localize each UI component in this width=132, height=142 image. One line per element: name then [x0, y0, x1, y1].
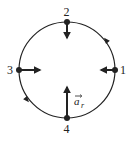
point-label-4: 4	[64, 122, 70, 136]
vector-subscript: r	[81, 101, 85, 110]
motion-direction-arrow-upper-right	[102, 36, 110, 44]
point-4: 4	[64, 87, 71, 136]
point-dot-2	[64, 19, 70, 25]
radial-acceleration-label: a r	[74, 95, 85, 111]
point-1: 1	[101, 63, 126, 77]
point-3: 3	[7, 63, 40, 77]
circular-motion-diagram: 1 2 3 4 a r	[0, 0, 132, 142]
point-2: 2	[64, 5, 71, 38]
point-dot-4	[64, 115, 70, 121]
point-dot-1	[112, 67, 118, 73]
point-label-2: 2	[64, 5, 70, 19]
point-label-3: 3	[7, 63, 13, 77]
point-label-1: 1	[120, 63, 126, 77]
vector-symbol: a	[74, 95, 80, 107]
point-dot-3	[16, 67, 22, 73]
